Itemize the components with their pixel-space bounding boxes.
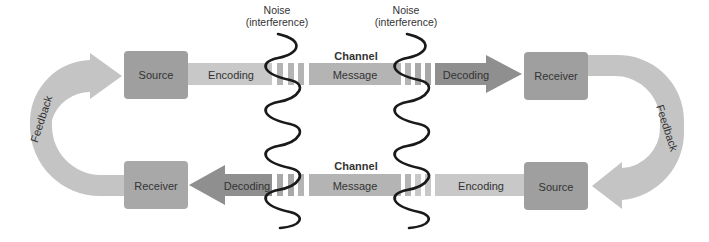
noise-label-left: Noise (interference) bbox=[246, 4, 308, 28]
top-message-label: Message bbox=[333, 69, 378, 81]
noise-label-right-line2: (interference) bbox=[375, 16, 437, 28]
noise-label-right: Noise (interference) bbox=[375, 4, 437, 28]
bottom-decoding-label: Decoding bbox=[224, 180, 270, 192]
diagram-graphics bbox=[0, 0, 709, 242]
bottom-receiver-box: Receiver bbox=[134, 180, 177, 192]
top-receiver-box: Receiver bbox=[534, 70, 577, 82]
top-decoding-label: Decoding bbox=[443, 69, 489, 81]
bottom-message-label: Message bbox=[333, 180, 378, 192]
bottom-source-box: Source bbox=[539, 181, 574, 193]
top-source-box: Source bbox=[139, 69, 174, 81]
bottom-encoding-label: Encoding bbox=[458, 180, 504, 192]
noise-label-left-line1: Noise bbox=[246, 4, 308, 16]
top-channel-label: Channel bbox=[334, 50, 377, 62]
noise-label-left-line2: (interference) bbox=[246, 16, 308, 28]
top-encoding-label: Encoding bbox=[208, 69, 254, 81]
bottom-channel-label: Channel bbox=[334, 160, 377, 172]
noise-label-right-line1: Noise bbox=[375, 4, 437, 16]
communication-model-diagram: Noise (interference) Noise (interference… bbox=[0, 0, 709, 242]
